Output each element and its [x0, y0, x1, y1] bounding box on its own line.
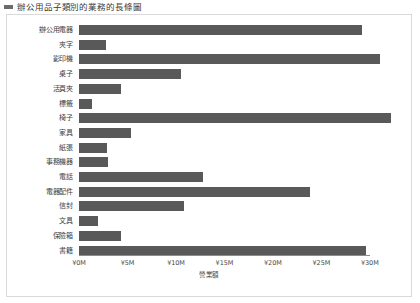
bar[interactable] [79, 216, 98, 226]
x-tick-label: ¥15M [216, 259, 234, 267]
bar-track [79, 228, 397, 244]
page-title: 辦公用品子類別的業務的長條圖 [17, 2, 142, 12]
bar-row: 電話 [7, 169, 411, 185]
bar-track [79, 140, 397, 156]
category-label: 桌子 [11, 70, 73, 78]
bar-row: 桌子 [7, 66, 411, 82]
bar[interactable] [79, 69, 181, 79]
bar[interactable] [79, 172, 203, 182]
bar[interactable] [79, 99, 92, 109]
bar[interactable] [79, 201, 184, 211]
bar-row: 文具 [7, 213, 411, 229]
chart-panel: 辦公用電器夾字影印機桌子活頁夾標籤椅子家具紙張事務機器電話電器配件信封文具保險箱… [6, 14, 412, 297]
x-axis-title: 營業額 [7, 271, 411, 279]
bar-track [79, 22, 397, 38]
legend-square-icon [4, 5, 13, 9]
bar-track [79, 154, 397, 170]
bar[interactable] [79, 54, 380, 64]
x-tick-label: ¥20M [264, 259, 282, 267]
bar-track [79, 110, 397, 126]
x-tick-label: ¥10M [167, 259, 185, 267]
bar-track [79, 81, 397, 97]
category-label: 書籍 [11, 247, 73, 255]
bar-track [79, 184, 397, 200]
x-tick-label: ¥25M [313, 259, 331, 267]
category-label: 電話 [11, 173, 73, 181]
bar-track [79, 51, 397, 67]
category-label: 椅子 [11, 114, 73, 122]
bar-row: 影印機 [7, 51, 411, 67]
bar-row: 椅子 [7, 110, 411, 126]
category-label: 保險箱 [11, 232, 73, 240]
category-label: 辦公用電器 [11, 26, 73, 34]
category-label: 信封 [11, 202, 73, 210]
bar-row: 辦公用電器 [7, 22, 411, 38]
bar[interactable] [79, 143, 107, 153]
bar-track [79, 66, 397, 82]
x-tick-label: ¥5M [121, 259, 135, 267]
x-tick-label: ¥30M [361, 259, 379, 267]
bar[interactable] [79, 25, 362, 35]
x-tick-label: ¥0M [72, 259, 86, 267]
bar-row: 事務機器 [7, 154, 411, 170]
bar[interactable] [79, 246, 366, 256]
category-label: 家具 [11, 129, 73, 137]
bar-row: 信封 [7, 198, 411, 214]
bar-track [79, 125, 397, 141]
chart-header: 辦公用品子類別的業務的長條圖 [0, 0, 420, 13]
bar-track [79, 37, 397, 53]
bar-row: 保險箱 [7, 228, 411, 244]
bar[interactable] [79, 157, 108, 167]
bar-track [79, 96, 397, 112]
category-label: 事務機器 [11, 158, 73, 166]
bar-track [79, 198, 397, 214]
bar[interactable] [79, 231, 121, 241]
bar-row: 書籍 [7, 243, 411, 259]
bar[interactable] [79, 84, 121, 94]
category-label: 電器配件 [11, 188, 73, 196]
bar-row: 紙張 [7, 140, 411, 156]
category-label: 活頁夾 [11, 85, 73, 93]
bar[interactable] [79, 40, 106, 50]
bar-row: 活頁夾 [7, 81, 411, 97]
x-axis-line [79, 255, 370, 256]
bar-row: 標籤 [7, 96, 411, 112]
category-label: 影印機 [11, 55, 73, 63]
category-label: 標籤 [11, 100, 73, 108]
bar[interactable] [79, 187, 310, 197]
category-label: 紙張 [11, 144, 73, 152]
category-label: 夾字 [11, 41, 73, 49]
bar[interactable] [79, 113, 391, 123]
bar-row: 夾字 [7, 37, 411, 53]
bar-track [79, 169, 397, 185]
bar-row: 家具 [7, 125, 411, 141]
bar-track [79, 213, 397, 229]
bar[interactable] [79, 128, 131, 138]
bar-track [79, 243, 397, 259]
category-label: 文具 [11, 217, 73, 225]
bar-chart-plot: 辦公用電器夾字影印機桌子活頁夾標籤椅子家具紙張事務機器電話電器配件信封文具保險箱… [7, 15, 411, 296]
bar-row: 電器配件 [7, 184, 411, 200]
